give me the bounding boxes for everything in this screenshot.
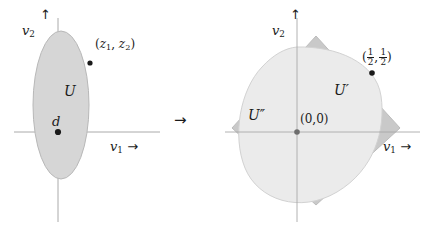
- right-x-axis-label: v1 →: [383, 140, 411, 155]
- region-U-label: U: [64, 84, 76, 98]
- left-x-axis-label: v1 →: [110, 140, 138, 155]
- point-half-half-label: (12, 12): [362, 48, 392, 67]
- point-d: [55, 129, 61, 135]
- left-y-axis-arrow-glyph: ↑: [40, 8, 51, 21]
- figure-container: ↑ v2 v1 → U d (z1, z2) → ↑ v2 v1 → U′ U″…: [0, 0, 443, 232]
- left-panel-group: [14, 18, 160, 222]
- region-U-shape: [33, 31, 89, 179]
- transformation-arrow: →: [174, 113, 187, 128]
- point-half-half: [369, 70, 375, 76]
- right-y-axis-arrow-glyph: ↑: [290, 8, 301, 21]
- point-origin-label: (0,0): [300, 113, 328, 125]
- point-d-label: d: [52, 115, 60, 128]
- region-U-prime-label: U′: [334, 83, 349, 97]
- point-z1-z2: [87, 60, 92, 65]
- region-U-double-prime-label: U″: [248, 108, 265, 122]
- point-z1-z2-label: (z1, z2): [95, 38, 135, 51]
- left-y-axis-label: v2: [22, 24, 35, 39]
- point-origin: [294, 129, 300, 135]
- right-y-axis-label: v2: [272, 24, 285, 39]
- figure-svg: [0, 0, 443, 232]
